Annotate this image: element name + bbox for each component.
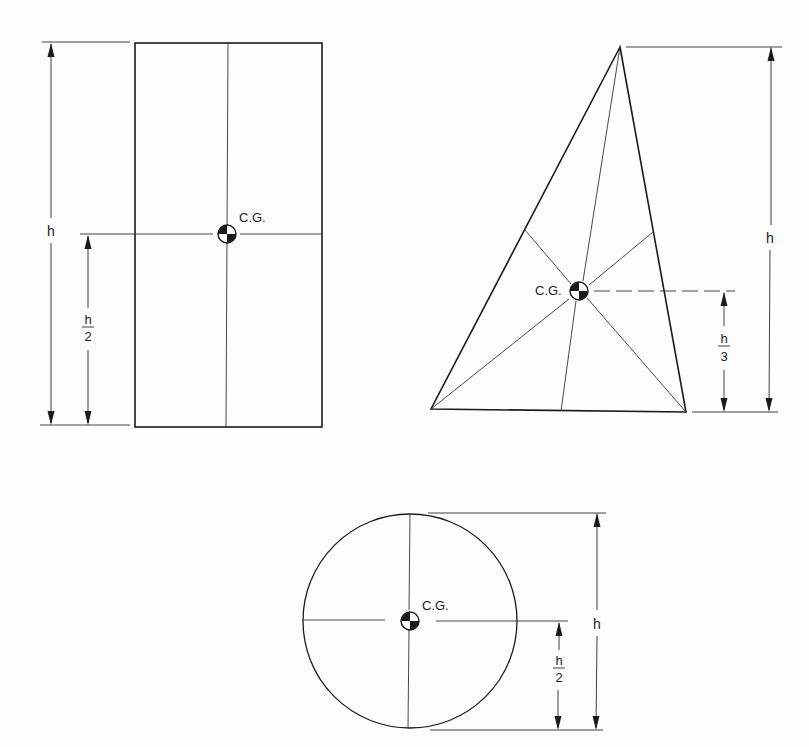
cg-height-dimension: h 2 (82, 235, 94, 425)
circle-vertical-centerline-lower (408, 630, 409, 728)
arrow-up-icon (48, 43, 55, 57)
arrow-down-icon (85, 411, 92, 425)
arrow-down-icon (555, 716, 562, 730)
arrow-down-icon (48, 411, 55, 425)
height-dimension: h (47, 43, 55, 425)
cg-symbol-icon (401, 612, 419, 630)
fraction-denominator: 3 (720, 349, 727, 364)
median-apex-lower (561, 301, 576, 411)
arrow-down-icon (593, 716, 600, 730)
cg-label: C.G. (535, 283, 562, 298)
rectangle-figure: C.G. h h 2 (40, 42, 322, 427)
arrow-up-icon (768, 47, 775, 61)
circle-figure: C.G. h h 2 (303, 513, 606, 730)
circle-vertical-centerline-upper (409, 514, 410, 610)
arrow-up-icon (85, 235, 92, 249)
height-label: h (766, 230, 774, 246)
cg-symbol-icon (570, 282, 588, 300)
median-left-lower (587, 298, 686, 412)
arrow-up-icon (556, 622, 563, 636)
cg-height-dimension: h 2 (553, 622, 565, 730)
median-right-upper (589, 232, 653, 285)
arrow-down-icon (721, 398, 728, 412)
triangle-outline (431, 47, 686, 412)
triangle-figure: C.G. h h 3 (431, 47, 782, 412)
height-label: h (47, 223, 55, 239)
height-dimension: h (766, 47, 775, 412)
cg-label: C.G. (239, 210, 266, 225)
median-left-upper (525, 230, 571, 284)
height-dimension: h (593, 513, 601, 730)
cg-label: C.G. (422, 598, 449, 613)
median-right-lower (431, 299, 569, 409)
fraction-denominator: 2 (84, 329, 91, 344)
fraction-numerator: h (84, 312, 91, 327)
fraction-numerator: h (720, 331, 727, 346)
cg-height-dimension: h 3 (718, 292, 730, 412)
fraction-numerator: h (555, 653, 562, 668)
cg-symbol-icon (218, 225, 236, 243)
center-of-gravity-diagram: C.G. h h 2 (0, 0, 809, 747)
height-label: h (593, 616, 601, 632)
fraction-denominator: 2 (555, 670, 562, 685)
arrow-down-icon (766, 398, 773, 412)
arrow-up-icon (594, 513, 601, 527)
arrow-up-icon (721, 292, 728, 306)
